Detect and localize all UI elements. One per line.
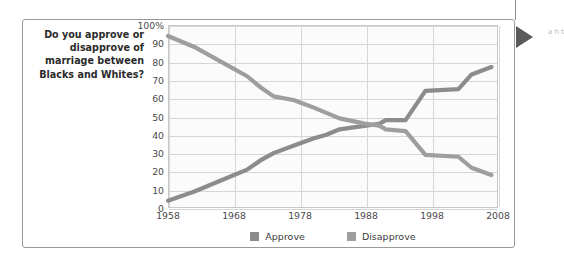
y-axis-labels: 0102030405060708090100% (132, 25, 164, 208)
triangle-pointer-icon (516, 26, 533, 48)
y-axis-tick: 80 (152, 56, 164, 67)
x-axis-tick: 2008 (486, 210, 510, 221)
line-chart: 0102030405060708090100% 1958196819781988… (168, 25, 498, 208)
edge-text-fragment: a h t (548, 28, 564, 38)
y-axis-tick: 20 (152, 166, 164, 177)
y-axis-tick: 40 (152, 129, 164, 140)
x-axis-tick: 1968 (222, 210, 246, 221)
gridline-vertical (499, 26, 500, 207)
chart-legend: Approve Disapprove (168, 228, 498, 244)
chart-figure: a h t Do you approve or disapprove of ma… (0, 0, 564, 267)
legend-label-disapprove: Disapprove (362, 231, 416, 242)
question-label: Do you approve or disapprove of marriage… (28, 28, 144, 81)
y-axis-tick: 10 (152, 184, 164, 195)
legend-label-approve: Approve (265, 231, 305, 242)
series-line-approve (168, 67, 491, 201)
connector-line (515, 0, 516, 20)
legend-swatch-disapprove (347, 232, 356, 241)
x-axis-tick: 1958 (156, 210, 180, 221)
x-axis-labels: 195819681978198819982008 (168, 210, 498, 226)
legend-swatch-approve (250, 232, 259, 241)
x-axis-tick: 1998 (420, 210, 444, 221)
y-axis-tick: 100% (137, 20, 164, 31)
x-axis-tick: 1988 (354, 210, 378, 221)
y-axis-tick: 30 (152, 148, 164, 159)
legend-item-approve: Approve (250, 231, 305, 242)
series-line-disapprove (168, 36, 491, 175)
y-axis-tick: 70 (152, 74, 164, 85)
x-axis-tick: 1978 (288, 210, 312, 221)
y-axis-tick: 60 (152, 93, 164, 104)
legend-item-disapprove: Disapprove (347, 231, 416, 242)
y-axis-tick: 50 (152, 111, 164, 122)
series-lines (168, 25, 498, 208)
y-axis-tick: 90 (152, 38, 164, 49)
